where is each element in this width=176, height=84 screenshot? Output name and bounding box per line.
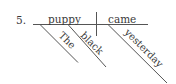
- modifier-word-black: black: [79, 30, 107, 58]
- sentence-diagram: 5. puppy came The black yesterday: [0, 0, 176, 84]
- verb-word: came: [108, 13, 136, 25]
- modifier-word-yesterday: yesterday: [122, 26, 166, 70]
- problem-number: 5.: [16, 14, 26, 26]
- modifier-word-the: The: [57, 30, 78, 51]
- subject-word: puppy: [48, 13, 81, 25]
